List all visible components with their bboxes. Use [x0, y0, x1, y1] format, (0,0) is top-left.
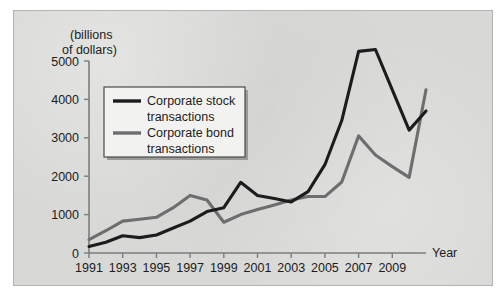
y-axis-tick-label: 3000 — [51, 131, 79, 145]
x-axis-tick-label: 1997 — [176, 261, 204, 275]
x-axis-tick-label: 1993 — [109, 261, 137, 275]
figure-root: (billions of dollars) 010002000300040005… — [0, 0, 502, 298]
legend-label-corporate-bond-line1: Corporate bond — [147, 126, 234, 140]
y-axis-ticks: 010002000300040005000 — [51, 55, 89, 261]
y-axis-tick-label: 0 — [72, 247, 79, 261]
x-axis-tick-label: 1999 — [210, 261, 238, 275]
chart-panel: (billions of dollars) 010002000300040005… — [13, 10, 493, 286]
line-chart-plot: (billions of dollars) 010002000300040005… — [14, 11, 492, 285]
y-axis-tick-label: 1000 — [51, 208, 79, 222]
x-axis-label: Year — [432, 246, 457, 260]
x-axis-tick-label: 2001 — [244, 261, 272, 275]
x-axis-tick-label: 2003 — [277, 261, 305, 275]
x-axis-ticks: 1991199319951997199920012003200520072009 — [75, 253, 406, 275]
chart-legend: Corporate stock transactions Corporate b… — [104, 87, 248, 160]
y-axis-tick-label: 5000 — [51, 55, 79, 69]
x-axis-tick-label: 2007 — [345, 261, 373, 275]
y-axis-tick-label: 2000 — [51, 170, 79, 184]
x-axis-tick-label: 2009 — [378, 261, 406, 275]
legend-label-corporate-stock-line1: Corporate stock — [147, 94, 236, 108]
y-axis-label-line1: (billions — [70, 28, 112, 42]
x-axis-tick-label: 1991 — [75, 261, 103, 275]
legend-label-corporate-stock-line2: transactions — [147, 110, 214, 124]
x-axis-tick-label: 1995 — [142, 261, 170, 275]
x-axis-tick-label: 2005 — [311, 261, 339, 275]
y-axis-tick-label: 4000 — [51, 93, 79, 107]
legend-label-corporate-bond-line2: transactions — [147, 142, 214, 156]
